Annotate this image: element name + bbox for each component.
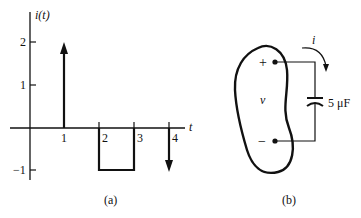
minus-sign: −	[258, 134, 266, 149]
y-tick-neg1: −1	[13, 163, 26, 177]
y-tick-1: 1	[20, 78, 26, 92]
panel-b: + − v 5 μF i (b)	[235, 33, 351, 207]
panel-a: i(t) t 2 1 −1 1 2 3 4 (a)	[10, 8, 193, 207]
caption-a: (a)	[104, 193, 117, 207]
capacitor-label: 5 μF	[328, 96, 350, 110]
plus-sign: +	[259, 55, 267, 70]
voltage-label: v	[260, 93, 266, 107]
current-arrow-icon	[302, 48, 326, 66]
x-axis-label: t	[189, 120, 193, 134]
current-label: i	[312, 33, 315, 47]
arrow-down-icon	[165, 160, 173, 172]
x-tick-3: 3	[137, 131, 143, 145]
x-tick-4: 4	[172, 131, 178, 145]
caption-b: (b)	[282, 193, 296, 207]
figure: i(t) t 2 1 −1 1 2 3 4 (a) + − v 5 μF i (…	[0, 0, 361, 218]
y-axis-label: i(t)	[35, 8, 50, 22]
arrow-up-icon	[60, 42, 68, 54]
x-tick-1: 1	[61, 131, 67, 145]
y-tick-2: 2	[20, 35, 26, 49]
x-tick-2: 2	[102, 131, 108, 145]
